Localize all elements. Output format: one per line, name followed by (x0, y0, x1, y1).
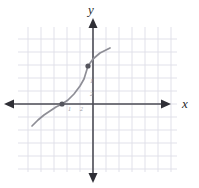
plotted-point-marker (59, 101, 64, 106)
plotted-point-marker (85, 63, 90, 68)
grid-lines (18, 27, 177, 172)
axis-tick-label: 2 (90, 91, 93, 97)
axis-tick-label: 1 (90, 78, 93, 84)
coordinate-plane-figure: y x 1212 (0, 0, 199, 188)
axis-tick-label: 1 (68, 106, 71, 112)
y-axis-down-arrowhead (89, 173, 98, 183)
y-axis-up-arrowhead (89, 18, 98, 28)
x-axis-right-arrowhead (161, 100, 171, 109)
graph-canvas (0, 0, 199, 188)
y-axis-label: y (88, 3, 94, 16)
grid-vertical-lines (28, 27, 171, 172)
plotted-curve (32, 48, 110, 126)
plotted-curve-group (32, 48, 110, 126)
axes (4, 18, 171, 183)
axis-tick-label: 2 (80, 106, 83, 112)
x-axis-left-arrowhead (4, 100, 14, 109)
x-axis-label: x (182, 97, 188, 110)
